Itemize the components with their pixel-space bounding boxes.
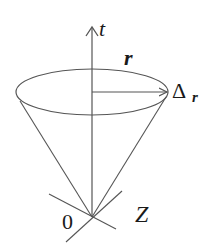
origin-label: 0 [62, 209, 73, 234]
delta-subscript-label: r [192, 89, 198, 105]
delta-label: Δ [172, 78, 186, 103]
z-axis-line-2 [66, 191, 122, 242]
z-label: Z [135, 201, 149, 227]
t-axis-label: t [99, 16, 106, 41]
z-axis-line-1 [49, 194, 116, 229]
radius-label: r [124, 45, 133, 70]
cone-diagram: t r Δ r 0 Z [0, 0, 216, 250]
cone-left-side [20, 101, 92, 217]
cone-svg: t r Δ r 0 Z [0, 0, 216, 250]
